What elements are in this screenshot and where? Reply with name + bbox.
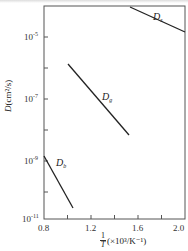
y-axis-label-unit: (cm²/s): [3, 80, 13, 106]
y-axis-label-var: D: [3, 106, 13, 113]
y-tick-label: 10-9: [24, 155, 38, 166]
x-ticks: [68, 215, 162, 219]
series-label-ds: Ds: [152, 11, 163, 23]
y-tick-label: 10-11: [22, 213, 39, 224]
y-ticks: [44, 37, 48, 192]
diffusion-chart: 10-5 10-7 10-9 10-11 0.8 1.2 1.6 2.0 Ds …: [0, 0, 188, 251]
series-label-dg: Dg: [101, 91, 112, 103]
y-axis-label: D(cm²/s): [3, 80, 13, 112]
x-axis-fraction: 1 T: [100, 232, 106, 249]
series-line-dg: [68, 64, 129, 135]
y-tick-label: 10-5: [24, 31, 38, 42]
x-tick-label: 2.0: [173, 223, 185, 233]
x-tick-label: 1.2: [85, 223, 96, 233]
series-label-db: Db: [55, 157, 66, 169]
y-tick-label: 10-7: [24, 93, 38, 104]
x-tick-label: 0.8: [38, 223, 50, 233]
x-axis-unit: (×10³/K⁻¹): [107, 236, 146, 246]
x-axis-label: 1 T (×10³/K⁻¹): [100, 232, 146, 249]
plot-frame: [44, 6, 185, 219]
fraction-denominator: T: [101, 241, 105, 249]
